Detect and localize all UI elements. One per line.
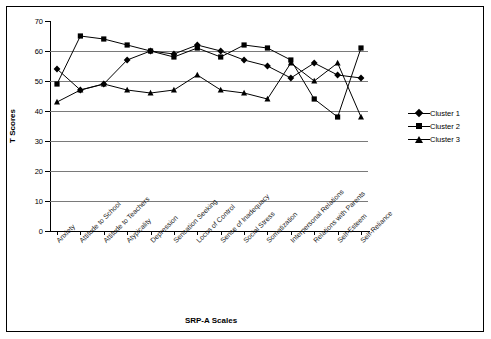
legend-item-2[interactable]: Cluster 2 <box>408 121 460 132</box>
y-tick-label-10: 10 <box>35 197 43 206</box>
y-tick-label-30: 30 <box>35 137 43 146</box>
chart-figure: T Scores SRP-A Scales 010203040506070 An… <box>0 0 491 339</box>
y-tick-label-70: 70 <box>35 17 43 26</box>
series-cluster-3 <box>54 60 364 120</box>
plot-area: 010203040506070 <box>50 21 368 231</box>
legend-item-1[interactable]: Cluster 1 <box>408 108 460 119</box>
y-tick-label-60: 60 <box>35 47 43 56</box>
legend-label-2: Cluster 2 <box>430 122 460 131</box>
x-tick-2 <box>104 231 105 235</box>
y-tick-label-50: 50 <box>35 77 43 86</box>
x-tick-4 <box>151 231 152 235</box>
series-cluster-1 <box>54 42 365 94</box>
triangle-marker-icon <box>408 134 430 145</box>
legend-label-1: Cluster 1 <box>430 109 460 118</box>
x-axis-title: SRP-A Scales <box>185 316 237 325</box>
y-tick-label-0: 0 <box>39 227 43 236</box>
y-tick-label-40: 40 <box>35 107 43 116</box>
y-axis-title: T Scores <box>8 109 17 143</box>
y-tick-label-20: 20 <box>35 167 43 176</box>
legend-item-3[interactable]: Cluster 3 <box>408 134 460 145</box>
chart-legend: Cluster 1Cluster 2Cluster 3 <box>408 108 460 147</box>
diamond-marker-icon <box>408 108 430 119</box>
legend-label-3: Cluster 3 <box>430 135 460 144</box>
x-tick-7 <box>221 231 222 235</box>
x-tick-12 <box>338 231 339 235</box>
square-marker-icon <box>408 121 430 132</box>
series-cluster-2 <box>54 33 363 119</box>
